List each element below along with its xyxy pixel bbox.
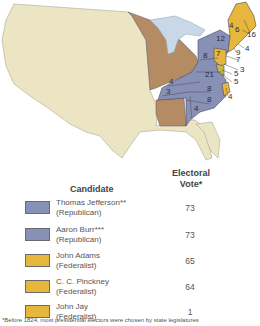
label-tn: 3 bbox=[166, 87, 171, 96]
label-pa: 8 bbox=[203, 51, 208, 60]
label-ma: 16 bbox=[247, 30, 256, 39]
label-ri: 4 bbox=[245, 44, 250, 53]
candidate-label: Aaron Burr***(Republican) bbox=[56, 225, 104, 245]
label-ky: 4 bbox=[169, 77, 174, 86]
header-candidate: Candidate bbox=[70, 184, 114, 194]
label-nh: 6 bbox=[235, 25, 240, 34]
candidate-label: John Adams(Federalist) bbox=[56, 251, 100, 271]
color-swatch bbox=[25, 201, 50, 214]
label-nj: 7 bbox=[216, 49, 221, 58]
label-nc-fed: 4 bbox=[228, 92, 233, 101]
label-ny: 12 bbox=[216, 34, 225, 43]
label-sc: 8 bbox=[207, 95, 212, 104]
vote-count: 1 bbox=[170, 307, 210, 317]
label-nc: 8 bbox=[207, 84, 212, 93]
color-swatch bbox=[25, 254, 50, 267]
label-de: 3 bbox=[240, 65, 245, 74]
vote-count: 64 bbox=[170, 282, 210, 292]
label-md-rep: 5 bbox=[234, 77, 239, 86]
legend-row: Aaron Burr***(Republican) 73 bbox=[0, 225, 260, 253]
vote-count: 65 bbox=[170, 256, 210, 266]
legend-row: C. C. Pinckney(Federalist) 64 bbox=[0, 277, 260, 305]
election-map: 4 6 16 4 9 12 7 8 3 5 5 21 4 3 8 4 8 4 7 bbox=[0, 0, 260, 162]
header-electoral-vote: Electoral Vote* bbox=[166, 168, 216, 190]
candidate-label: Thomas Jefferson**(Republican) bbox=[56, 198, 126, 218]
legend-row: John Adams(Federalist) 65 bbox=[0, 251, 260, 279]
mississippi-territory bbox=[156, 98, 186, 126]
legend-row: Thomas Jefferson**(Republican) 73 bbox=[0, 198, 260, 226]
label-ga: 4 bbox=[194, 104, 199, 113]
color-swatch bbox=[25, 228, 50, 241]
footnote: *Before 1824, most presidential electors… bbox=[2, 317, 199, 323]
label-va: 21 bbox=[205, 70, 214, 79]
label-vt: 4 bbox=[229, 21, 234, 30]
candidate-label: C. C. Pinckney(Federalist) bbox=[56, 277, 109, 297]
vote-count: 73 bbox=[170, 230, 210, 240]
color-swatch bbox=[25, 280, 50, 293]
vote-count: 73 bbox=[170, 203, 210, 213]
